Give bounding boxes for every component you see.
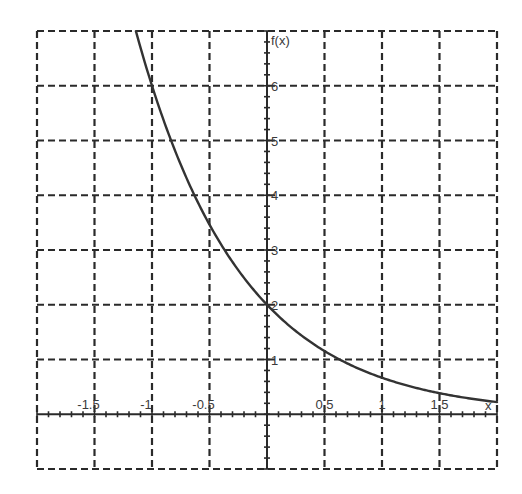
y-tick-label: 6 (271, 79, 278, 94)
x-axis-label: x (485, 398, 492, 413)
x-tick-label: 1.5 (430, 397, 448, 412)
x-tick-label: -1 (140, 397, 152, 412)
x-tick-label: -0.5 (192, 397, 214, 412)
y-tick-label: 3 (271, 243, 278, 258)
function-plot: -1.5-1-0.50.511.5123456 f(x) x (0, 0, 522, 494)
y-tick-label: 2 (271, 298, 278, 313)
y-tick-label: 1 (271, 353, 278, 368)
y-tick-label: 4 (271, 188, 278, 203)
x-tick-label: -1.5 (77, 397, 99, 412)
x-tick-label: 1 (378, 397, 385, 412)
y-axis-label: f(x) (271, 33, 290, 48)
tick-labels: -1.5-1-0.50.511.5123456 (77, 79, 448, 413)
x-tick-label: 0.5 (315, 397, 333, 412)
y-tick-label: 5 (271, 134, 278, 149)
